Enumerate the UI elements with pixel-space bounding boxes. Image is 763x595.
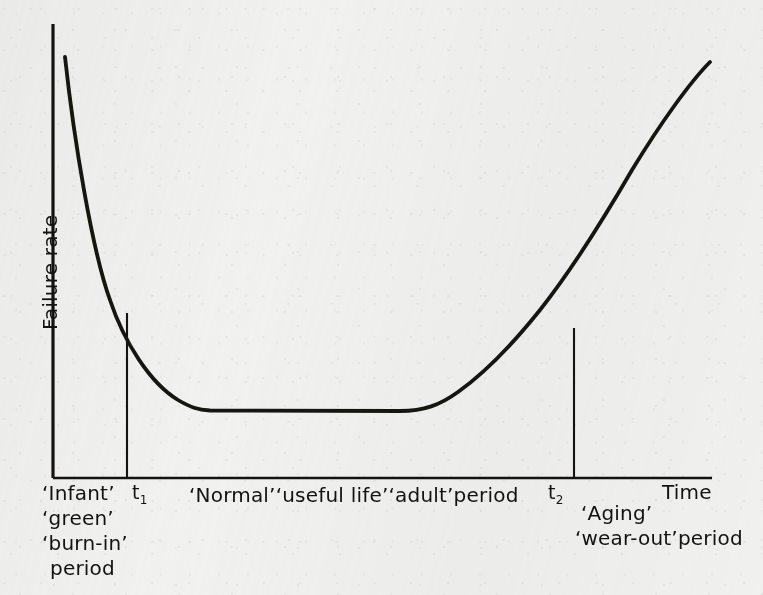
region-label-line: ‘wear-out’period [575, 526, 743, 551]
region-label-infant-mortality: ‘Infant’ ‘green’ ‘burn-in’ period [42, 481, 128, 581]
region-label-useful-life: ‘Normal’‘useful life’‘adult’period [189, 483, 519, 508]
region-label-line: ‘burn-in’ [42, 531, 128, 556]
region-label-line: ‘green’ [42, 506, 128, 531]
t2-tick-label: t2 [548, 481, 564, 507]
region-label-line: ‘Aging’ [581, 501, 743, 526]
t1-tick-label-text: t [132, 481, 140, 503]
bathtub-curve-path [65, 57, 710, 411]
region-label-line: period [42, 556, 128, 581]
region-label-line: ‘Infant’ [42, 481, 128, 506]
t1-tick-label: t1 [132, 481, 148, 507]
figure-canvas: Failure rate Time t1 t2 ‘Infant’ ‘green’… [0, 0, 763, 595]
t1-tick-label-sub: 1 [140, 493, 148, 507]
t2-tick-label-text: t [548, 481, 556, 503]
region-label-wear-out: ‘Aging’ ‘wear-out’period [581, 501, 743, 551]
y-axis-label: Failure rate [38, 215, 62, 330]
t2-tick-label-sub: 2 [556, 493, 564, 507]
